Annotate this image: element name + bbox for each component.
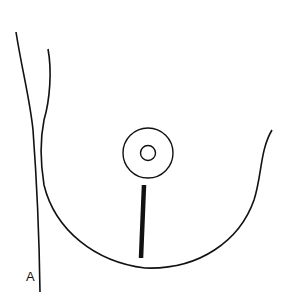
figure-canvas bbox=[0, 0, 289, 306]
areola-circle bbox=[123, 128, 173, 178]
chest-wall-line bbox=[16, 32, 40, 292]
panel-label: A bbox=[26, 269, 35, 284]
incision-line bbox=[141, 185, 144, 258]
breast-contour-line bbox=[41, 49, 272, 268]
nipple-circle bbox=[141, 146, 156, 161]
breast-diagram bbox=[0, 0, 289, 306]
